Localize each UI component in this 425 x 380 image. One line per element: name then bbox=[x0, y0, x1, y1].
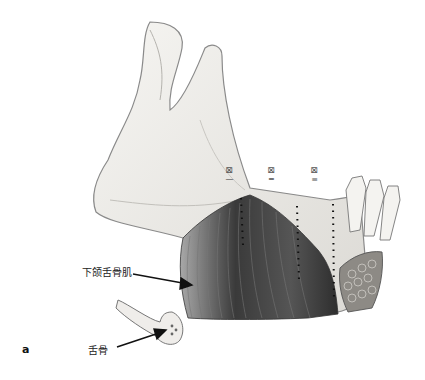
hyoid-bone bbox=[116, 300, 183, 344]
label-hyoid: 舌骨 bbox=[88, 342, 108, 357]
mandible-illustration bbox=[0, 0, 425, 380]
zone-marker-1: ⊠— bbox=[222, 166, 236, 184]
panel-label: a bbox=[22, 343, 29, 356]
incisor-teeth bbox=[346, 176, 400, 240]
zone-marker-3: ⊠≡ bbox=[307, 166, 321, 184]
zone-marker-2: ⊠═ bbox=[264, 166, 278, 184]
label-mylohyoid: 下颌舌骨肌 bbox=[82, 264, 132, 279]
